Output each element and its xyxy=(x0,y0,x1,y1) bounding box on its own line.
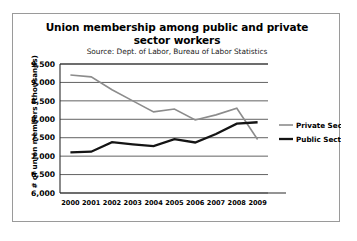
line-chart-plot: 6,0006,5007,0007,5008,0008,5009,0009,500… xyxy=(13,14,341,223)
y-axis-tick-label: 7,500 xyxy=(31,133,55,142)
x-axis-tick-label: 2003 xyxy=(124,199,143,207)
y-axis-tick-label: 6,500 xyxy=(31,170,55,179)
y-axis-tick-label: 9,000 xyxy=(31,78,55,87)
x-axis-tick-label: 2006 xyxy=(186,199,205,207)
y-axis-tick-label: 7,000 xyxy=(31,152,55,161)
legend-label-public-sector: Public Sector xyxy=(296,135,341,144)
y-axis-tick-label: 8,000 xyxy=(31,115,55,124)
chart-legend: Private SectorPublic Sector xyxy=(279,121,341,144)
y-axis-tick-labels: 6,0006,5007,0007,5008,0008,5009,0009,500 xyxy=(31,60,55,198)
x-axis-tick-label: 2004 xyxy=(144,199,163,207)
y-axis-tick-label: 6,000 xyxy=(31,189,55,198)
x-axis-tick-label: 2002 xyxy=(103,199,122,207)
x-axis-tick-label: 2008 xyxy=(228,199,247,207)
x-axis-tick-label: 2007 xyxy=(207,199,226,207)
x-axis-tick-label: 2001 xyxy=(82,199,101,207)
y-axis-tick-label: 9,500 xyxy=(31,60,55,69)
x-axis-tick-labels: 2000200120022003200420052006200720082009 xyxy=(61,199,267,207)
axis-lines xyxy=(60,64,286,193)
x-axis-tick-label: 2005 xyxy=(165,199,184,207)
gridlines-group xyxy=(60,64,268,193)
y-axis-tick-label: 8,500 xyxy=(31,97,55,106)
x-axis-tick-label: 2000 xyxy=(61,199,80,207)
x-axis-tick-label: 2009 xyxy=(248,199,267,207)
series-line-private-sector xyxy=(70,75,257,140)
legend-label-private-sector: Private Sector xyxy=(296,121,341,130)
data-series-group xyxy=(70,75,257,152)
chart-figure-frame: Union membership among public and privat… xyxy=(12,13,340,222)
